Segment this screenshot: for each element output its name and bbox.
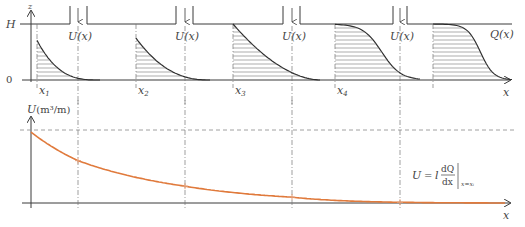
u-data-point — [397, 199, 403, 205]
u-data-point — [289, 194, 295, 200]
formula-denominator: dx — [442, 177, 453, 187]
section-label: x3 — [235, 84, 246, 98]
u-axis-label: U(m³/m) — [27, 103, 71, 116]
section-label: x4 — [337, 84, 348, 98]
section-label: x2 — [138, 84, 149, 98]
formula-numerator: dQ — [441, 164, 454, 174]
u-data-point — [182, 183, 188, 189]
outflow-label: U(x) — [390, 30, 414, 43]
formula-coef: l — [435, 169, 439, 182]
level-zero-label: 0 — [6, 74, 12, 85]
q-profile-curve — [136, 38, 210, 80]
outflow-label: U(x) — [68, 30, 92, 43]
q-profile-label: Q(x) — [490, 28, 514, 41]
x-axis-bottom-label: x — [503, 209, 510, 222]
level-h-label: H — [5, 18, 16, 31]
u-data-point — [75, 158, 81, 164]
formula-eq: = — [424, 170, 432, 181]
outflow-label: U(x) — [282, 30, 306, 43]
top-panel: z x H 0 U(x)U(x)U(x)U(x) x1x2x3x4 Q(x) — [5, 2, 514, 105]
bottom-panel: U(m³/m) x U = l dQ dx x=xᵢ — [20, 100, 515, 222]
diagram-canvas: z x H 0 U(x)U(x)U(x)U(x) x1x2x3x4 Q(x) U… — [0, 0, 525, 227]
formula-lhs: U — [412, 169, 422, 182]
formula-eval: x=xᵢ — [461, 180, 475, 187]
formula: U = l dQ dx x=xᵢ — [412, 163, 475, 189]
x-axis-label: x — [503, 86, 510, 99]
channel-top-wall — [20, 6, 512, 24]
u-curve-series — [31, 132, 505, 203]
z-axis-label: z — [27, 2, 33, 11]
section-label: x1 — [39, 84, 50, 98]
outflow-label: U(x) — [175, 30, 199, 43]
